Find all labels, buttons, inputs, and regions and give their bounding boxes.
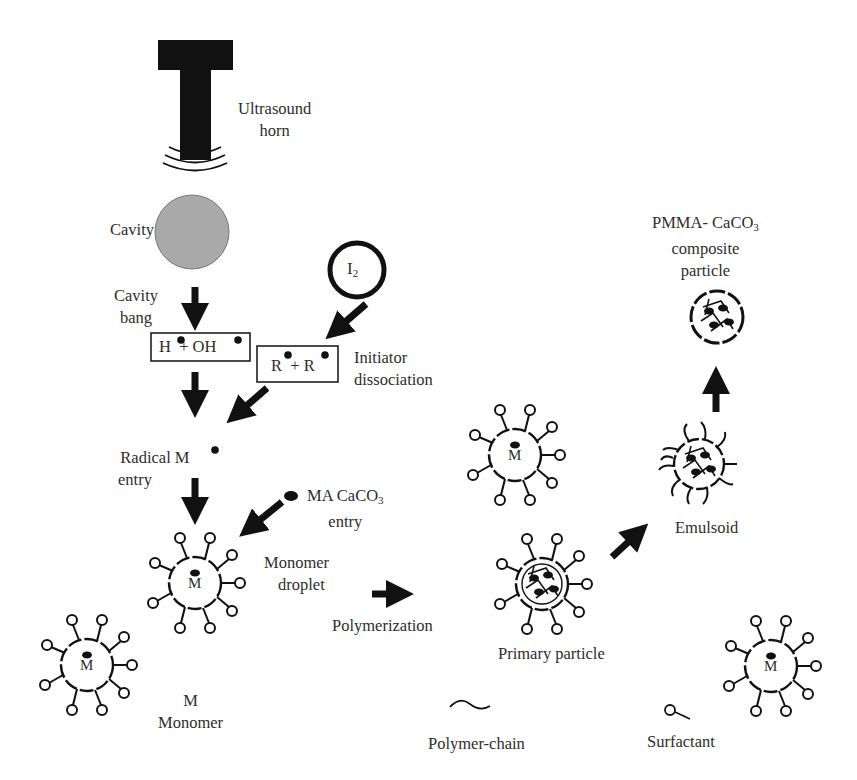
h-oh-radicals-text: H + OH bbox=[159, 336, 216, 358]
emulsoid-label: Emulsoid bbox=[675, 517, 738, 539]
ultrasound-horn-icon bbox=[158, 40, 233, 171]
composite-particle-icon bbox=[691, 291, 743, 343]
droplet-core-letter: M bbox=[80, 654, 93, 676]
initiator-label: I2 bbox=[347, 258, 358, 284]
cavity-label: Cavity bbox=[110, 219, 154, 241]
cavity-bang-label: Cavity bang bbox=[114, 285, 158, 329]
polymer-chain-icon bbox=[450, 701, 490, 709]
legend-surfactant: Surfactant bbox=[647, 731, 715, 753]
legend-polymer-chain: Polymer-chain bbox=[428, 733, 525, 755]
primary-particle-icon bbox=[495, 534, 592, 634]
composite-particle-label: PMMA- CaCO3 composite particle bbox=[652, 212, 759, 282]
droplet-core-letter: M bbox=[764, 655, 777, 677]
droplet-core-letter: M bbox=[508, 444, 521, 466]
polymerization-label: Polymerization bbox=[332, 615, 433, 637]
surfactant-icon bbox=[665, 705, 690, 719]
radical-entry-label: Radical M entry bbox=[118, 447, 192, 491]
emulsoid-icon bbox=[659, 422, 737, 504]
flow-arrows bbox=[195, 287, 716, 594]
legend-monomer: M Monomer bbox=[158, 690, 223, 734]
caco3-particle-icon bbox=[284, 491, 298, 501]
monomer-droplet-label: Monomer droplet bbox=[264, 552, 329, 596]
ultrasound-horn-label: Ultrasound horn bbox=[238, 98, 311, 142]
cavity-bubble-icon bbox=[155, 195, 229, 269]
initiator-dissociation-label: Initiator dissociation bbox=[354, 347, 433, 391]
droplet-core-letter: M bbox=[188, 572, 201, 594]
primary-particle-label: Primary particle bbox=[498, 643, 605, 665]
ma-caco3-entry-label: MA CaCO3 entry bbox=[307, 485, 384, 533]
r-r-radicals-text: R + R bbox=[271, 355, 315, 377]
